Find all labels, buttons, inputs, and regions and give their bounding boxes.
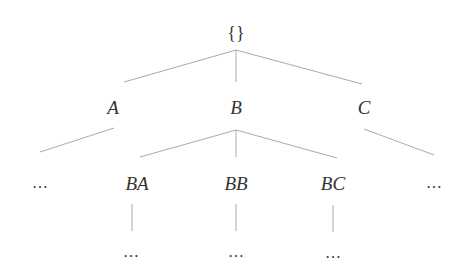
node-ba: BA — [125, 173, 148, 195]
edge-c-dots — [364, 129, 434, 155]
node-b: B — [230, 97, 242, 119]
edge-b-ba — [140, 130, 236, 157]
node-bc-ellipsis: … — [325, 244, 341, 262]
node-c-ellipsis: … — [426, 174, 442, 192]
edge-a-dots — [40, 128, 114, 152]
edge-root-c — [236, 50, 362, 84]
edge-b-bc — [236, 130, 337, 158]
node-a-ellipsis: … — [32, 174, 48, 192]
node-a: A — [107, 97, 119, 119]
node-root: {} — [227, 23, 244, 44]
node-c: C — [358, 97, 371, 119]
node-bb: BB — [224, 173, 247, 195]
node-bc: BC — [321, 173, 345, 195]
node-ba-ellipsis: … — [123, 243, 139, 261]
node-bb-ellipsis: … — [228, 243, 244, 261]
edge-root-a — [124, 50, 236, 82]
